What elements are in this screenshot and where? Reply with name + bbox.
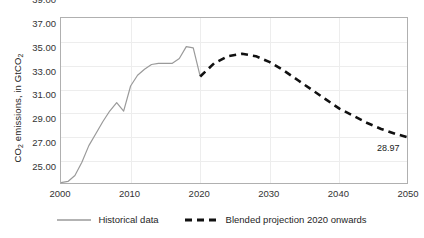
y-tick-39.00: 39.00 [14,0,56,5]
y-tick-31.00: 31.00 [14,90,56,100]
series-layer [61,18,409,185]
chart-legend: Historical data Blended projection 2020 … [0,206,424,234]
legend-swatch-dashed-icon [185,216,219,224]
y-tick-29.00: 29.00 [14,114,56,124]
x-tick-2010: 2010 [106,188,154,199]
x-tick-2040: 2040 [314,188,362,199]
legend-item-projection: Blended projection 2020 onwards [185,214,367,226]
series-line-projection [200,54,409,138]
co2-emissions-line-chart: CO2 emissions, in GtCO2 25.0027.0029.003… [0,0,424,238]
series-line-historical [61,47,200,183]
legend-item-historical: Historical data [57,214,158,226]
y-tick-37.00: 37.00 [14,19,56,29]
x-tick-2000: 2000 [36,188,84,199]
y-tick-27.00: 27.00 [14,138,56,148]
y-tick-33.00: 33.00 [14,67,56,77]
x-tick-2020: 2020 [175,188,223,199]
x-tick-2050: 2050 [384,188,424,199]
x-tick-2030: 2030 [245,188,293,199]
y-tick-35.00: 35.00 [14,43,56,53]
legend-swatch-solid-icon [57,216,91,224]
plot-area [60,17,408,184]
y-tick-25.00: 25.00 [14,162,56,172]
legend-label-projection: Blended projection 2020 onwards [226,214,367,226]
legend-label-historical: Historical data [98,214,158,226]
data-label-28.97: 28.97 [377,143,400,153]
y-axis-tick-labels: 25.0027.0029.0031.0033.0035.0037.0039.00 [12,0,56,167]
